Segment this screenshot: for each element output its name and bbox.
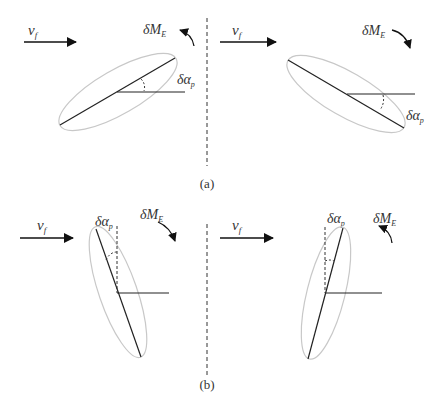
subfigure-a-left: vf δME δαp: [24, 22, 195, 145]
svg-text:vf: vf: [232, 22, 243, 40]
svg-text:δME: δME: [140, 207, 163, 224]
svg-text:vf: vf: [37, 217, 48, 235]
svg-text:vf: vf: [28, 22, 39, 40]
moment-subscript: E: [379, 31, 385, 40]
panel-caption: (b): [199, 377, 214, 392]
angle-arc-icon: [325, 260, 334, 261]
velocity-subscript: f: [239, 30, 243, 40]
angle-subscript: p: [419, 116, 424, 125]
subfigure-a-right: vf δME δαp: [220, 22, 424, 147]
svg-text:δME: δME: [373, 211, 396, 228]
velocity-subscript: f: [35, 30, 39, 40]
svg-text:δαp: δαp: [406, 108, 424, 125]
svg-text:δαp: δαp: [327, 211, 345, 228]
angle-label: δα: [406, 108, 421, 123]
angle-arc-icon: [141, 79, 145, 91]
moment-ccw-arrow-icon: [180, 30, 194, 46]
angle-label: δα: [177, 72, 192, 87]
svg-text:δαp: δαp: [177, 72, 195, 89]
subfigure-b-right: vf δME δαp: [220, 211, 396, 364]
panel-caption: (a): [200, 176, 214, 191]
angle-subscript: p: [190, 80, 195, 89]
moment-ccw-arrow-icon: [379, 226, 392, 243]
moment-cw-arrow-icon: [158, 222, 175, 241]
velocity-subscript: f: [44, 225, 48, 235]
angle-subscript: p: [108, 222, 113, 231]
panel-a: vf δME δαp vf δME: [24, 18, 424, 191]
subfigure-b-left: vf δME δαp: [20, 207, 175, 363]
svg-text:vf: vf: [232, 217, 243, 235]
svg-text:δME: δME: [143, 22, 166, 39]
moment-subscript: E: [160, 30, 166, 39]
moment-cw-arrow-icon: [392, 30, 410, 48]
angle-arc-icon: [380, 95, 384, 110]
moment-label: δM: [362, 23, 382, 38]
moment-subscript: E: [390, 219, 396, 228]
moment-label: δM: [140, 207, 160, 222]
figure-canvas: vf δME δαp vf δME: [0, 0, 447, 413]
velocity-subscript: f: [239, 225, 243, 235]
moment-label: δM: [143, 22, 163, 37]
svg-text:δME: δME: [362, 23, 385, 40]
angle-arc-icon: [106, 252, 117, 260]
panel-b: vf δME δαp vf δME: [20, 207, 396, 392]
angle-label: δα: [327, 211, 342, 226]
moment-label: δM: [373, 211, 393, 226]
